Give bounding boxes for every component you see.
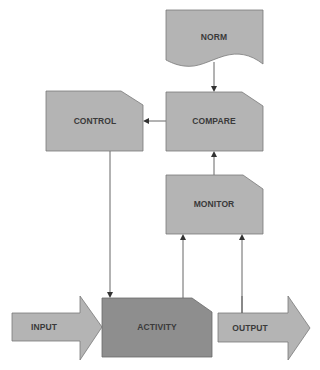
node-control-label: CONTROL: [74, 116, 117, 126]
arrowhead-norm-compare: [211, 86, 217, 92]
node-input-label: INPUT: [31, 322, 58, 332]
node-output-label: OUTPUT: [232, 323, 268, 333]
node-control: CONTROL: [46, 91, 143, 151]
arrowhead-compare-control: [143, 118, 149, 124]
arrowhead-activity-monitor: [180, 234, 186, 240]
arrowhead-control-activity: [107, 292, 113, 298]
node-compare-label: COMPARE: [192, 116, 236, 126]
control-loop-diagram: NORM CONTROL COMPARE MONITOR INPUT ACTIV…: [0, 0, 320, 370]
node-monitor-label: MONITOR: [194, 199, 235, 209]
node-input: INPUT: [12, 296, 102, 360]
node-norm-label: NORM: [201, 32, 227, 42]
node-activity: ACTIVITY: [102, 298, 212, 357]
node-monitor: MONITOR: [166, 175, 263, 234]
arrowhead-monitor-compare: [211, 151, 217, 157]
arrowhead-output-monitor: [239, 234, 245, 240]
node-activity-label: ACTIVITY: [137, 322, 177, 332]
node-output: OUTPUT: [218, 296, 310, 360]
node-norm: NORM: [166, 10, 263, 66]
node-compare: COMPARE: [166, 92, 263, 151]
